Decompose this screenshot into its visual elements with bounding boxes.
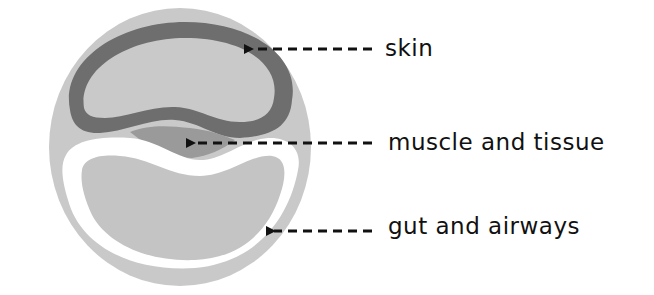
skin-label: skin [385,37,433,60]
cross-section-diagram: skin muscle and tissue gut and airways [0,0,654,295]
gut-and-airways-label: gut and airways [388,215,580,238]
muscle-and-tissue-label: muscle and tissue [388,131,605,154]
